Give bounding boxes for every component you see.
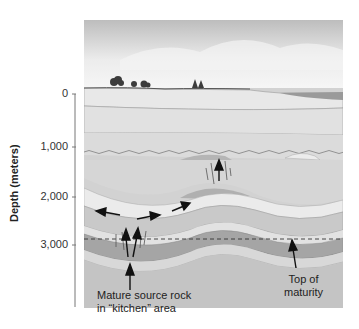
tick-label-1000: 1,000 — [28, 140, 68, 152]
tick-label-3000: 3,000 — [28, 238, 68, 250]
tick-label-2000: 2,000 — [28, 190, 68, 202]
tick-label-0: 0 — [28, 87, 68, 99]
maturity-label: Top of maturity — [284, 273, 323, 299]
geologic-cross-section-diagram: 0 1,000 2,000 3,000 Depth (meters) Matur… — [0, 0, 359, 329]
axis-title: Depth (meters) — [8, 144, 20, 222]
source-rock-label: Mature source rock in “kitchen” area — [97, 289, 191, 315]
